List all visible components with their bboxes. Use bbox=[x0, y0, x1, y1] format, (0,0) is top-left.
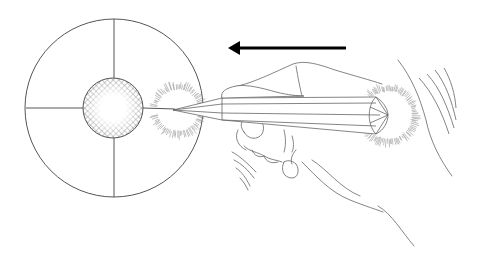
center-disc bbox=[83, 78, 143, 138]
diagram-canvas bbox=[0, 0, 479, 263]
direction-arrow-left-icon bbox=[228, 41, 346, 55]
motion-lines bbox=[419, 68, 456, 134]
illustration bbox=[0, 0, 479, 263]
instrument-pen bbox=[173, 97, 388, 134]
index-finger bbox=[222, 85, 304, 98]
crosshair-horizontal-right bbox=[143, 108, 175, 109]
